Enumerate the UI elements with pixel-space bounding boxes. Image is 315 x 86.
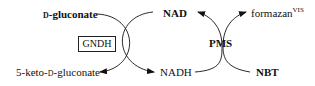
- pms-text: PMS: [209, 37, 232, 49]
- enzyme-box: GNDH: [78, 36, 116, 52]
- nbt-text: NBT: [256, 66, 279, 78]
- nadh-text: NADH: [160, 66, 192, 78]
- substrate-name: -gluconate: [49, 8, 98, 20]
- product-label: 5-keto-d-gluconate: [16, 66, 100, 78]
- nad-text: NAD: [163, 7, 187, 19]
- arrow-nad-to-nadh: [122, 12, 154, 72]
- pms-label: PMS: [209, 37, 232, 49]
- formazan-superscript: VIS: [293, 6, 304, 14]
- reaction-diagram: d-gluconate GNDH 5-keto-d-gluconate NAD …: [0, 0, 315, 86]
- nadh-label: NADH: [160, 66, 192, 78]
- nad-label: NAD: [163, 7, 187, 19]
- formazan-text: formazan: [251, 7, 293, 19]
- nbt-label: NBT: [256, 66, 279, 78]
- enzyme-label: GNDH: [83, 38, 112, 49]
- formazan-label: formazanVIS: [251, 7, 304, 19]
- substrate-label: d-gluconate: [43, 8, 98, 20]
- product-name: -gluconate: [54, 66, 100, 78]
- product-prefix: 5-keto-: [16, 66, 48, 78]
